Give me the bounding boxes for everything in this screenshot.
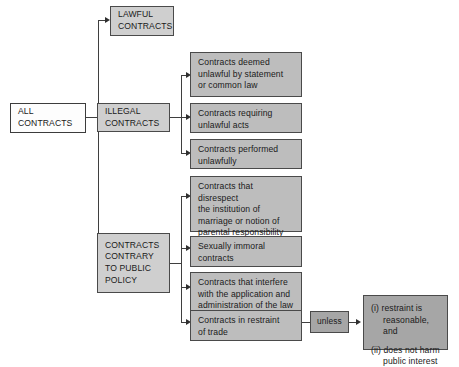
- node-illegal-contracts[interactable]: ILLEGAL CONTRACTS: [97, 103, 170, 132]
- node-restraint-exceptions[interactable]: (i) restraint is reasonable, and (ii) do…: [363, 295, 448, 350]
- node-all-contracts-label: ALL CONTRACTS: [18, 106, 72, 129]
- node-policy-restraint-of-trade[interactable]: Contracts in restraint of trade: [190, 310, 302, 341]
- node-illegal-requiring-unlawful-acts[interactable]: Contracts requiring unlawful acts: [190, 103, 302, 133]
- node-lawful-contracts[interactable]: LAWFUL CONTRACTS: [110, 6, 174, 36]
- node-illegal-contracts-label: ILLEGAL CONTRACTS: [105, 106, 159, 129]
- connector-spine: [98, 20, 99, 263]
- node-unless[interactable]: unless: [310, 311, 349, 333]
- node-all-contracts[interactable]: ALL CONTRACTS: [10, 103, 86, 133]
- flowchart-diagram: ALL CONTRACTS LAWFUL CONTRACTS ILLEGAL C…: [0, 0, 459, 367]
- node-policy-restraint-of-trade-label: Contracts in restraint of trade: [198, 315, 295, 338]
- arrowhead-exception: [356, 319, 361, 325]
- node-policy-marriage[interactable]: Contracts that disrespect the institutio…: [190, 176, 302, 232]
- node-public-policy[interactable]: CONTRACTS CONTRARY TO PUBLIC POLICY: [97, 233, 170, 293]
- node-illegal-performed-unlawfully-label: Contracts performed unlawfully: [198, 144, 295, 167]
- node-illegal-statute-label: Contracts deemed unlawful by statement o…: [198, 57, 295, 92]
- node-illegal-requiring-unlawful-acts-label: Contracts requiring unlawful acts: [198, 108, 295, 131]
- connector-policy-spine: [181, 196, 182, 322]
- node-policy-immoral[interactable]: Sexually immoral contracts: [190, 236, 302, 267]
- node-policy-marriage-label: Contracts that disrespect the institutio…: [198, 181, 295, 239]
- exception-item-2: (ii) does not harm public interest: [371, 345, 441, 367]
- connector-illegal-spine: [181, 75, 182, 153]
- node-policy-administration-of-law-label: Contracts that interfere with the applic…: [198, 277, 295, 312]
- node-policy-immoral-label: Sexually immoral contracts: [198, 241, 295, 264]
- node-public-policy-label: CONTRACTS CONTRARY TO PUBLIC POLICY: [105, 240, 159, 286]
- node-illegal-statute[interactable]: Contracts deemed unlawful by statement o…: [190, 52, 302, 97]
- exception-item-1: (i) restraint is reasonable, and: [371, 303, 441, 338]
- node-lawful-contracts-label: LAWFUL CONTRACTS: [118, 9, 172, 32]
- node-unless-label: unless: [317, 316, 342, 328]
- node-illegal-performed-unlawfully[interactable]: Contracts performed unlawfully: [190, 139, 302, 169]
